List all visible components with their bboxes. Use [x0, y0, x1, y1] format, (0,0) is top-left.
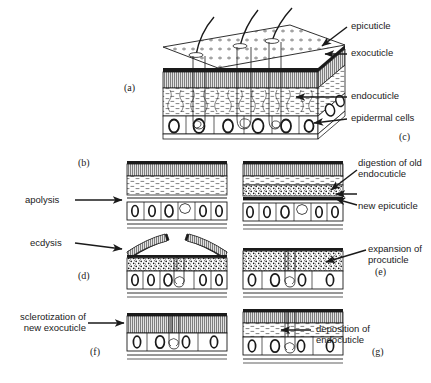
- label-deposition-line2: endocuticle: [316, 334, 364, 345]
- panel-a-block: [163, 8, 346, 139]
- block-side-layers: [318, 45, 345, 139]
- label-exocuticle: exocuticle: [351, 47, 393, 58]
- label-epidermal-cells: epidermal cells: [351, 112, 414, 123]
- cuticle-moulting-figure: epicuticle exocuticle endocuticle epider…: [0, 0, 431, 383]
- label-expansion-line1: expansion of: [368, 243, 422, 254]
- panel-letter-d: (d): [78, 270, 90, 281]
- label-digestion-line1: digestion of old: [358, 157, 422, 168]
- label-endocuticle: endocuticle: [351, 90, 399, 101]
- label-deposition-line1: deposition of: [316, 323, 370, 334]
- panel-letter-f: (f): [90, 346, 100, 357]
- label-sclerotization-line2: new exocuticle: [0, 322, 86, 333]
- panel-b-apolysis: [127, 161, 227, 228]
- label-digestion-line2: endocuticle: [358, 168, 406, 179]
- label-ecdysis: ecdysis: [30, 237, 62, 248]
- panel-c-digestion: [243, 161, 343, 229]
- label-new-epicuticle: new epicuticle: [358, 200, 418, 211]
- panel-letter-g: (g): [372, 346, 384, 357]
- panel-letter-b: (b): [78, 157, 90, 168]
- panel-e-expansion: [243, 248, 343, 297]
- label-epicuticle: epicuticle: [351, 20, 391, 31]
- panel-f-sclerotization: [127, 313, 227, 359]
- panel-letter-c: (c): [399, 131, 410, 142]
- label-expansion-line2: procuticle: [368, 254, 409, 265]
- label-sclerotization-line1: sclerotization of: [0, 311, 86, 322]
- panel-d-ecdysis: [127, 234, 227, 297]
- arrow-ecdysis: [75, 243, 122, 249]
- panel-letter-a: (a): [124, 82, 135, 93]
- panel-letter-e: (e): [375, 266, 386, 277]
- label-apolysis: apolysis: [25, 194, 59, 205]
